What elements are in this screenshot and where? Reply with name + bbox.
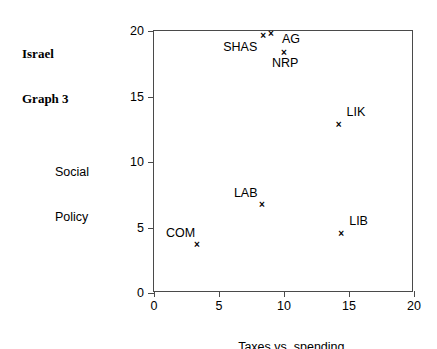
y-tick-15 bbox=[148, 97, 154, 98]
x-tick-label-5: 5 bbox=[216, 299, 223, 313]
y-axis-title: Social Policy bbox=[55, 135, 89, 255]
point-label-ag: AG bbox=[282, 32, 300, 45]
point-marker-lik: × bbox=[336, 120, 342, 130]
x-tick-20 bbox=[414, 291, 415, 297]
y-tick-20 bbox=[148, 31, 154, 32]
point-label-com: COM bbox=[166, 227, 195, 240]
chart-title: Israel Graph 3 bbox=[22, 16, 69, 136]
plot-area: 0 5 10 15 20 0 5 10 15 20 × SHAS × AG bbox=[153, 30, 413, 292]
x-tick-10 bbox=[284, 291, 285, 297]
x-tick-15 bbox=[349, 291, 350, 297]
y-tick-label-15: 15 bbox=[130, 90, 144, 104]
point-marker-lab: × bbox=[259, 200, 265, 210]
point-marker-shas: × bbox=[260, 31, 266, 41]
chart-title-line-1: Israel bbox=[22, 46, 69, 61]
chart-screenshot: Israel Graph 3 Social Policy Taxes vs. s… bbox=[0, 0, 437, 349]
point-marker-lib: × bbox=[338, 229, 344, 239]
point-label-lab: LAB bbox=[234, 187, 258, 200]
point-label-shas: SHAS bbox=[223, 41, 257, 54]
x-tick-label-0: 0 bbox=[151, 299, 158, 313]
y-tick-5 bbox=[148, 228, 154, 229]
y-tick-label-0: 0 bbox=[137, 286, 144, 300]
point-label-nrp: NRP bbox=[272, 57, 298, 70]
y-tick-10 bbox=[148, 162, 154, 163]
point-label-lib: LIB bbox=[349, 215, 368, 228]
y-tick-label-20: 20 bbox=[130, 24, 144, 38]
point-label-lik: LIK bbox=[347, 106, 366, 119]
point-marker-com: × bbox=[194, 240, 200, 250]
point-marker-ag: × bbox=[268, 29, 274, 39]
x-tick-5 bbox=[219, 291, 220, 297]
x-tick-0 bbox=[154, 291, 155, 297]
y-tick-label-10: 10 bbox=[130, 155, 144, 169]
x-axis-title: Taxes vs. spending bbox=[0, 326, 437, 349]
chart-title-line-2: Graph 3 bbox=[22, 91, 69, 106]
y-axis-title-line-1: Social bbox=[55, 165, 89, 180]
x-tick-label-20: 20 bbox=[407, 299, 421, 313]
y-axis-title-line-2: Policy bbox=[55, 210, 89, 225]
x-tick-label-10: 10 bbox=[277, 299, 291, 313]
y-tick-label-5: 5 bbox=[137, 221, 144, 235]
x-tick-label-15: 15 bbox=[342, 299, 356, 313]
x-axis-title-text: Taxes vs. spending bbox=[238, 340, 344, 349]
